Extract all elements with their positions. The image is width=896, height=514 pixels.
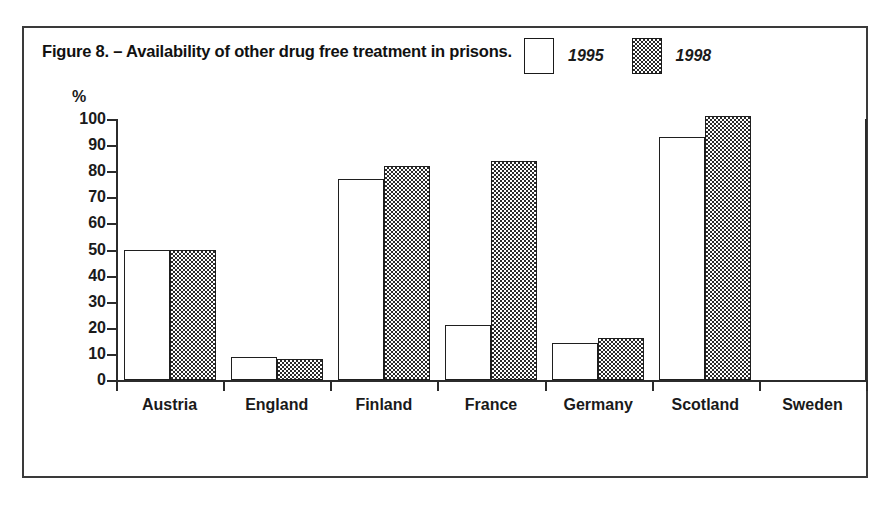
x-axis-label-germany: Germany	[563, 396, 632, 414]
x-axis-separator	[866, 380, 868, 391]
x-axis-separator	[545, 380, 547, 391]
x-axis-label-england: England	[245, 396, 308, 414]
bar-group	[759, 119, 866, 380]
bar-england-1998	[277, 359, 323, 380]
x-axis-separator	[652, 380, 654, 391]
bar-group	[223, 119, 330, 380]
x-axis-label-scotland: Scotland	[672, 396, 740, 414]
legend-entry-1998: 1998	[632, 38, 740, 74]
x-axis-separator	[759, 380, 761, 391]
y-axis-tick-label: 100	[60, 110, 106, 128]
bar-germany-1995	[552, 343, 598, 380]
y-axis-tick-label: 90	[60, 136, 106, 154]
bars-layer	[116, 119, 866, 380]
figure-caption: Figure 8. – Availability of other drug f…	[42, 42, 512, 61]
y-axis-tick-label: 80	[60, 162, 106, 180]
checkered-square-icon	[632, 38, 662, 74]
bar-group	[652, 119, 759, 380]
x-axis-label-finland: Finland	[355, 396, 412, 414]
bar-france-1995	[445, 325, 491, 380]
y-axis-tick-label: 0	[60, 371, 106, 389]
y-axis-tick-label: 60	[60, 214, 106, 232]
bar-group	[437, 119, 544, 380]
bar-finland-1995	[338, 179, 384, 380]
y-axis-tick-label: 10	[60, 345, 106, 363]
bar-austria-1998	[170, 250, 216, 381]
bar-group	[116, 119, 223, 380]
bar-scotland-1995	[659, 137, 705, 380]
bar-austria-1995	[124, 250, 170, 381]
y-axis-tick-label: 20	[60, 319, 106, 337]
x-axis-separator	[116, 380, 118, 391]
chart-legend: 1995 1998	[524, 38, 739, 74]
figure-header: Figure 8. – Availability of other drug f…	[24, 28, 866, 84]
y-axis-tick-label: 40	[60, 267, 106, 285]
legend-label-1998: 1998	[676, 47, 712, 65]
bar-germany-1998	[598, 338, 644, 380]
y-axis-unit-label: %	[72, 88, 86, 106]
x-axis-separator	[223, 380, 225, 391]
y-axis-tick-label: 70	[60, 188, 106, 206]
legend-entry-1995: 1995	[524, 38, 632, 74]
x-axis-label-austria: Austria	[142, 396, 197, 414]
y-axis-tick-label: 50	[60, 241, 106, 259]
bar-finland-1998	[384, 166, 430, 380]
x-axis-separator	[437, 380, 439, 391]
bar-england-1995	[231, 357, 277, 380]
bar-scotland-1998	[705, 116, 751, 380]
figure-frame: Figure 8. – Availability of other drug f…	[22, 26, 868, 478]
white-square-icon	[524, 38, 554, 74]
legend-label-1995: 1995	[568, 47, 604, 65]
bar-group	[330, 119, 437, 380]
bar-group	[545, 119, 652, 380]
plot-area: % 1009080706050403020100 AustriaEnglandF…	[24, 84, 870, 480]
y-axis-tick-label: 30	[60, 293, 106, 311]
x-axis-separator	[330, 380, 332, 391]
bar-france-1998	[491, 161, 537, 380]
x-axis-line	[116, 380, 866, 382]
x-axis-label-france: France	[465, 396, 517, 414]
x-axis-label-sweden: Sweden	[782, 396, 842, 414]
